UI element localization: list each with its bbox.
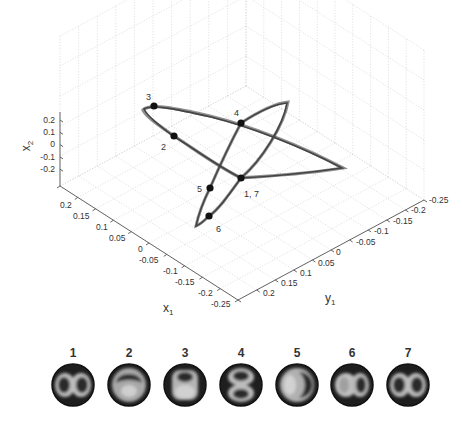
grid-line bbox=[246, 0, 424, 80]
point-label: 6 bbox=[216, 224, 221, 234]
mode-label: 3 bbox=[182, 346, 189, 360]
grid-line bbox=[149, 143, 335, 243]
point-label: 1, 7 bbox=[244, 189, 259, 199]
z-axis-title: x2 bbox=[19, 140, 35, 151]
x1-tick: -0.05 bbox=[139, 255, 159, 265]
tick-mark bbox=[57, 186, 60, 188]
x1-tick: 0.1 bbox=[96, 222, 108, 232]
y1-tick: -0.25 bbox=[429, 195, 449, 205]
point-6-marker bbox=[205, 212, 212, 219]
mode-images: 1 2 3 bbox=[52, 346, 429, 406]
y1-tick: -0.1 bbox=[374, 226, 389, 236]
z-tick: 0.1 bbox=[43, 127, 55, 137]
tick-mark bbox=[128, 232, 131, 234]
grid-line bbox=[153, 136, 331, 250]
z-tick: -0.1 bbox=[40, 152, 55, 162]
mode-label: 2 bbox=[126, 346, 133, 360]
point-1-7-marker bbox=[237, 174, 244, 181]
z-tick: 0.2 bbox=[43, 115, 55, 125]
tick-marks bbox=[57, 120, 427, 302]
svg-text:x2: x2 bbox=[19, 140, 35, 151]
grid-line bbox=[220, 189, 406, 289]
y1-tick: 0.15 bbox=[281, 278, 298, 288]
axis-titles: x2 x1 y1 bbox=[19, 140, 336, 317]
figure: 0.2 0.1 0 -0.1 -0.2 0.2 0.15 0.1 0.05 0 … bbox=[0, 0, 462, 423]
point-4-marker bbox=[237, 119, 244, 126]
y1-tick: 0.1 bbox=[300, 268, 312, 278]
y1-tick: 0.05 bbox=[318, 258, 335, 268]
tick-mark bbox=[146, 243, 149, 245]
tick-mark bbox=[199, 277, 202, 279]
grid-line bbox=[246, 56, 424, 170]
x1-tick: -0.15 bbox=[175, 277, 195, 287]
tick-mark bbox=[275, 280, 278, 282]
x1-tick: -0.2 bbox=[198, 288, 213, 298]
y1-tick: -0.15 bbox=[393, 216, 413, 226]
point-5-marker bbox=[206, 184, 213, 191]
tick-mark bbox=[257, 290, 260, 292]
tick-mark bbox=[93, 209, 96, 211]
x1-tick: -0.25 bbox=[211, 299, 231, 309]
y1-tick: -0.2 bbox=[411, 205, 426, 215]
tick-mark bbox=[387, 220, 390, 222]
mode-image-7 bbox=[387, 364, 429, 406]
mode-image-1 bbox=[52, 364, 94, 406]
mode-label: 1 bbox=[70, 346, 77, 360]
mode-label: 4 bbox=[238, 346, 245, 360]
tick-mark bbox=[312, 260, 315, 262]
tick-mark bbox=[424, 200, 427, 202]
mode-image-5 bbox=[276, 364, 318, 406]
tick-mark bbox=[182, 266, 185, 268]
tick-mark bbox=[164, 254, 167, 256]
z-tick: 0 bbox=[50, 139, 55, 149]
mode-image-4 bbox=[220, 364, 262, 406]
tick-mark bbox=[368, 230, 371, 232]
y1-tick: -0.05 bbox=[356, 237, 376, 247]
mode-label: 7 bbox=[405, 346, 412, 360]
mode-image-3 bbox=[164, 364, 206, 406]
point-label: 3 bbox=[146, 92, 151, 102]
x1-tick: -0.1 bbox=[163, 266, 178, 276]
z-tick-labels: 0.2 0.1 0 -0.1 -0.2 bbox=[40, 115, 55, 174]
mode-label: 6 bbox=[349, 346, 356, 360]
tick-mark bbox=[217, 289, 220, 291]
mode-image-6 bbox=[331, 364, 373, 406]
grid-lines bbox=[60, 0, 424, 300]
z-tick: -0.2 bbox=[40, 164, 55, 174]
y1-tick: 0 bbox=[336, 247, 341, 257]
x1-tick: 0.05 bbox=[109, 233, 126, 243]
point-label: 5 bbox=[197, 184, 202, 194]
tick-mark bbox=[110, 220, 113, 222]
chart-3d: 0.2 0.1 0 -0.1 -0.2 0.2 0.15 0.1 0.05 0 … bbox=[0, 0, 462, 423]
tick-mark bbox=[294, 270, 297, 272]
point-2-marker bbox=[170, 132, 177, 139]
tick-mark bbox=[331, 250, 334, 252]
point-label: 2 bbox=[161, 142, 166, 152]
mode-image-2 bbox=[108, 364, 150, 406]
tick-mark bbox=[75, 197, 78, 199]
tick-mark bbox=[238, 300, 241, 302]
x1-axis-title: x1 bbox=[163, 301, 174, 317]
tick-mark bbox=[350, 240, 353, 242]
point-3-marker bbox=[150, 102, 157, 109]
tick-mark bbox=[405, 210, 408, 212]
x1-tick: 0.15 bbox=[73, 211, 90, 221]
y1-axis-title: y1 bbox=[325, 291, 336, 307]
tick-mark bbox=[235, 300, 238, 302]
y1-tick: 0.2 bbox=[263, 288, 275, 298]
x1-tick: 0.2 bbox=[60, 200, 72, 210]
x1-tick: 0 bbox=[138, 244, 143, 254]
point-label: 4 bbox=[234, 108, 239, 118]
mode-label: 5 bbox=[294, 346, 301, 360]
